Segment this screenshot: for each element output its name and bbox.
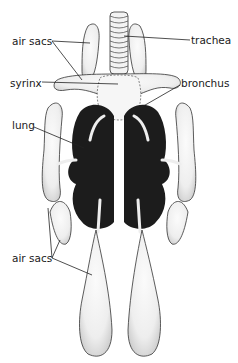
label-trachea: trachea [191, 35, 231, 46]
respiratory-diagram [0, 0, 238, 363]
label-lung: lung [12, 120, 35, 131]
label-air-sacs-bottom: air sacs [12, 253, 52, 264]
lungs [58, 105, 180, 232]
side-air-sacs [42, 103, 196, 244]
abdominal-air-sacs [80, 230, 161, 356]
label-air-sacs-top: air sacs [12, 36, 52, 47]
label-syrinx: syrinx [10, 78, 42, 89]
label-bronchus: bronchus [181, 78, 229, 89]
trachea [110, 12, 128, 74]
